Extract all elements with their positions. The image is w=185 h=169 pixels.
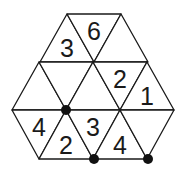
cell-number: 4 bbox=[32, 113, 46, 141]
vertex-dot bbox=[89, 154, 99, 164]
cell-number: 4 bbox=[113, 131, 127, 159]
cell-number: 1 bbox=[140, 82, 154, 110]
puzzle-board: 36214234 bbox=[0, 0, 185, 169]
cell-number: 6 bbox=[87, 17, 101, 45]
cell-number: 3 bbox=[86, 113, 100, 141]
vertex-dot bbox=[143, 154, 153, 164]
cell-number: 2 bbox=[59, 131, 73, 159]
cell-number: 3 bbox=[60, 34, 74, 62]
cell-number: 2 bbox=[113, 65, 127, 93]
vertex-dot bbox=[61, 105, 71, 115]
